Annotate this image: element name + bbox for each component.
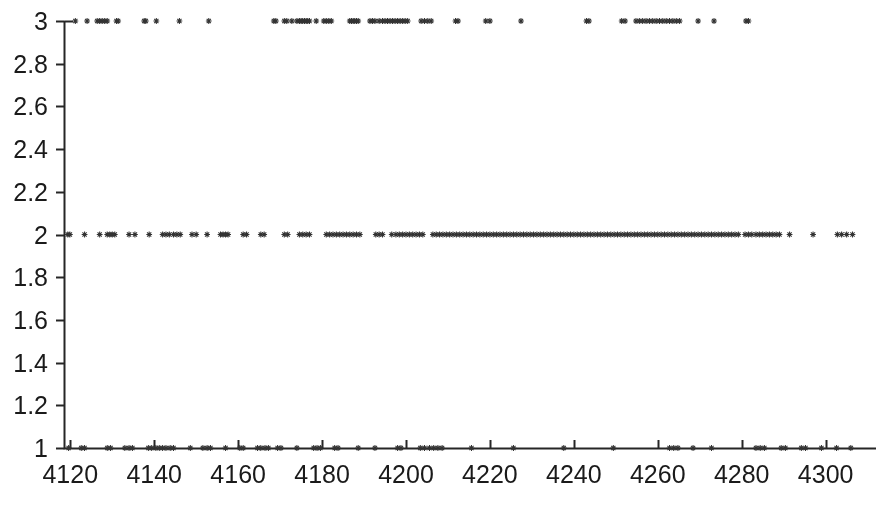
y-tick-label: 1 — [34, 436, 48, 461]
x-tick-label: 4160 — [210, 462, 266, 487]
plot-canvas — [0, 0, 889, 505]
y-tick-label: 1.8 — [13, 265, 48, 290]
y-tick-label: 2 — [34, 222, 48, 247]
scatter-plot-figure: 11.21.41.61.822.22.42.62.83 412041404160… — [0, 0, 889, 505]
x-tick-label: 4280 — [714, 462, 770, 487]
x-tick-label: 4300 — [798, 462, 854, 487]
y-tick-label: 2.2 — [13, 179, 48, 204]
x-tick-label: 4220 — [462, 462, 518, 487]
x-tick-label: 4200 — [378, 462, 434, 487]
x-tick-label: 4140 — [126, 462, 182, 487]
x-tick-label: 4120 — [42, 462, 98, 487]
y-tick-label: 2.6 — [13, 94, 48, 119]
x-tick-label: 4240 — [546, 462, 602, 487]
y-tick-label: 2.4 — [13, 137, 48, 162]
y-tick-label: 3 — [34, 9, 48, 34]
y-tick-label: 1.6 — [13, 307, 48, 332]
x-tick-label: 4260 — [630, 462, 686, 487]
y-tick-label: 1.4 — [13, 350, 48, 375]
y-tick-label: 1.2 — [13, 393, 48, 418]
x-tick-label: 4180 — [294, 462, 350, 487]
y-tick-label: 2.8 — [13, 51, 48, 76]
